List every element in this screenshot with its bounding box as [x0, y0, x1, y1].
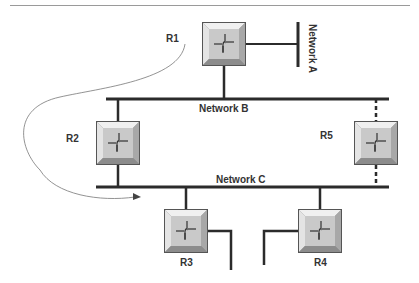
label-r1: R1	[166, 33, 179, 44]
router-r3-icon	[164, 209, 208, 253]
router-r5-icon	[354, 121, 398, 165]
label-network-c: Network C	[216, 174, 265, 185]
router-r2-icon	[96, 121, 140, 165]
label-network-a: Network A	[307, 24, 318, 73]
router-r4-icon	[298, 209, 342, 253]
arrowhead-icon	[133, 193, 141, 200]
label-r5: R5	[320, 130, 333, 141]
label-r4: R4	[314, 257, 327, 268]
label-network-b: Network B	[199, 103, 248, 114]
router-r1-icon	[202, 22, 246, 66]
label-r2: R2	[66, 133, 79, 144]
label-r3: R3	[180, 257, 193, 268]
r3-external-link	[208, 231, 231, 270]
r4-external-link	[264, 231, 298, 265]
network-diagram	[0, 0, 419, 283]
